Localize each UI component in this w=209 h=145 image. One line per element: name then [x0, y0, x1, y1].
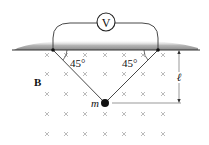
left-angle-label: 45°: [70, 57, 85, 69]
length-label: ℓ: [177, 71, 182, 83]
mass-ball: [101, 99, 109, 107]
diagram-canvas: V 45° 45° m B ℓ: [0, 0, 209, 145]
physics-diagram: V 45° 45° m B ℓ: [0, 0, 209, 145]
voltmeter-label: V: [102, 16, 111, 30]
left-pivot: [51, 48, 55, 52]
right-angle-arc: [144, 50, 148, 60]
magnetic-field-marks: [45, 53, 165, 136]
left-angle-arc: [63, 50, 67, 60]
mass-label: m: [91, 97, 99, 109]
field-label: B: [34, 76, 42, 88]
length-arrow-bottom: [177, 99, 180, 103]
right-pivot: [156, 48, 160, 52]
right-angle-label: 45°: [122, 57, 137, 69]
length-arrow-top: [177, 50, 180, 54]
ceiling-surface: [14, 40, 198, 50]
